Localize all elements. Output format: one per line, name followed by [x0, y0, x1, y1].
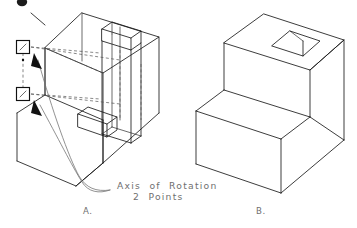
axis-point-upper-marker[interactable] — [17, 41, 30, 62]
figure-a-rotation-prism — [102, 22, 141, 143]
figure-label-b: B. — [256, 206, 266, 216]
figure-b-group — [196, 14, 344, 193]
annotation-line-2: 2 Points — [133, 191, 184, 202]
figure-a-outer-box — [17, 13, 159, 186]
annotation-line-1: Axis of Rotation — [117, 180, 218, 191]
figure-a-arrowheads — [31, 53, 42, 116]
figure-b-top-hole — [272, 31, 320, 56]
figure-a-group — [17, 13, 160, 192]
axis-point-lower-marker[interactable] — [17, 88, 30, 101]
diagram-canvas: Axis of Rotation 2 Points A. B. — [0, 0, 357, 228]
technical-drawing: Axis of Rotation 2 Points A. B. — [0, 0, 357, 228]
corner-mark-icon — [17, 0, 45, 25]
figure-label-a: A. — [83, 206, 93, 216]
figure-a-leader-lines — [38, 60, 110, 192]
